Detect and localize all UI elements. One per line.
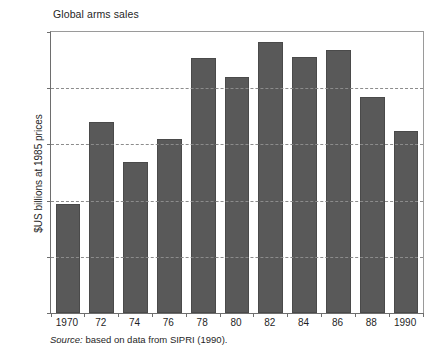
x-tick-label-1970: 1970 [56,317,78,328]
x-tick-label-82: 82 [264,317,275,328]
chart-title: Global arms sales [53,8,139,20]
y-axis-title: $US billions at 1985 prices [33,74,44,274]
gridline-y-10 [51,201,423,202]
x-tick-mark-1990 [389,313,390,317]
x-tick-label-76: 76 [163,317,174,328]
bar-88 [360,97,385,313]
bar-76 [157,139,182,313]
bar-78 [191,58,216,313]
x-tick-mark-82 [253,313,254,317]
x-tick-mark-74 [118,313,119,317]
gridline-y-20 [51,88,423,89]
bar-72 [89,122,114,313]
x-tick-label-86: 86 [332,317,343,328]
source-prefix: Source: [50,334,83,345]
gridline-y-5 [51,257,423,258]
x-tick-label-84: 84 [298,317,309,328]
bar-74 [123,162,148,313]
x-tick-label-80: 80 [230,317,241,328]
x-tick-label-74: 74 [129,317,140,328]
x-tick-mark-80 [220,313,221,317]
x-tick-label-72: 72 [95,317,106,328]
x-tick-mark-84 [287,313,288,317]
source-text: based on data from SIPRI (1990). [83,334,228,345]
figure: Global arms sales $US billions at 1985 p… [0,0,447,350]
x-tick-mark-86 [321,313,322,317]
bar-1990 [394,131,419,313]
bar-86 [326,50,351,313]
bar-82 [258,42,283,313]
plot-inner [51,32,423,313]
x-tick-mark-72 [84,313,85,317]
x-tick-mark-88 [355,313,356,317]
x-tick-label-78: 78 [197,317,208,328]
x-tick-mark-1970 [51,313,52,317]
x-tick-mark-78 [186,313,187,317]
x-tick-label-88: 88 [366,317,377,328]
x-tick-label-1990: 1990 [394,317,416,328]
y-tick-mark-25 [47,32,51,33]
plot-area [50,31,424,314]
gridline-y-15 [51,144,423,145]
source-note: Source: based on data from SIPRI (1990). [50,334,227,345]
bar-80 [225,77,250,313]
bar-1970 [56,204,81,313]
bar-84 [292,57,317,313]
x-tick-mark-76 [152,313,153,317]
x-tick-mark-end [423,313,424,317]
